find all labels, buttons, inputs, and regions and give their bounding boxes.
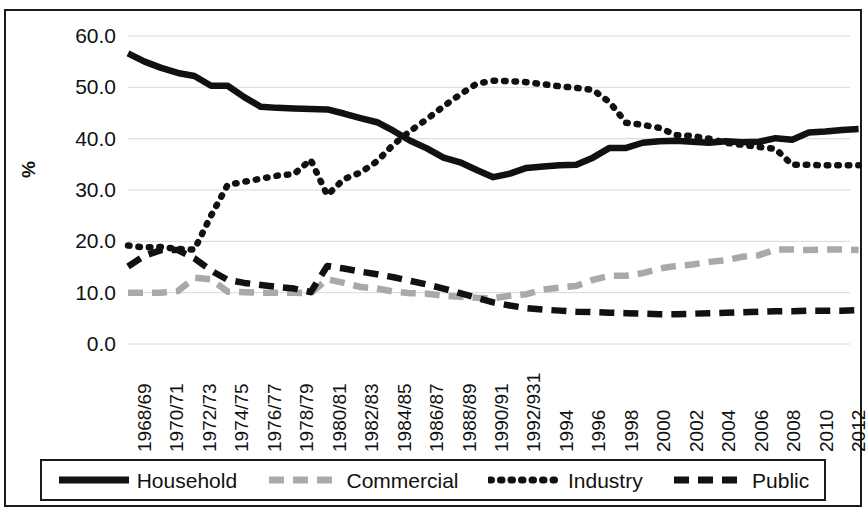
series-layer (128, 53, 859, 314)
legend-label: Household (137, 470, 237, 491)
x-tick-label: 1974/75 (232, 383, 251, 452)
dashed-line-swatch (267, 473, 341, 487)
x-tick-label: 1986/87 (427, 383, 446, 452)
series-line-commercial (128, 250, 859, 299)
x-tick-label: 1998 (622, 410, 641, 452)
dashed-line-swatch (672, 473, 746, 487)
x-axis-tick-labels: 1968/691970/711972/731974/751976/771978/… (0, 352, 868, 457)
x-tick-label: 1970/71 (167, 383, 186, 452)
series-line-public (128, 250, 859, 314)
gridlines (128, 36, 850, 344)
legend-entry-commercial: Commercial (267, 470, 459, 491)
y-axis-tick-labels: 60.050.040.030.020.010.00.0 (46, 0, 116, 360)
x-tick-label: 1984/85 (395, 383, 414, 452)
x-tick-label: 1978/79 (297, 383, 316, 452)
x-tick-label: 1972/73 (200, 383, 219, 452)
x-tick-label: 1994 (557, 410, 576, 452)
series-line-household (128, 53, 859, 177)
y-tick-label: 20.0 (46, 230, 116, 251)
y-axis-title: % (18, 161, 40, 178)
y-tick-label: 60.0 (46, 25, 116, 46)
x-tick-label: 2008 (784, 410, 803, 452)
x-tick-label: 1982/83 (362, 383, 381, 452)
plot-area: 60.050.040.030.020.010.00.0 % 1968/69197… (0, 0, 868, 460)
x-tick-label: 1990/91 (492, 383, 511, 452)
chart-figure: 60.050.040.030.020.010.00.0 % 1968/69197… (0, 0, 868, 514)
legend-entry-public: Public (672, 470, 809, 491)
x-tick-label: 1976/77 (265, 383, 284, 452)
series-line-industry (128, 81, 859, 250)
x-tick-label: 1968/69 (135, 383, 154, 452)
x-tick-label: 1988/89 (460, 383, 479, 452)
x-tick-label: 2012 (849, 410, 868, 452)
legend-label: Industry (568, 470, 643, 491)
x-tick-label: 1980/81 (330, 383, 349, 452)
y-tick-label: 40.0 (46, 128, 116, 149)
y-tick-label: 10.0 (46, 282, 116, 303)
x-tick-label: 2002 (687, 410, 706, 452)
y-tick-label: 0.0 (46, 333, 116, 354)
x-tick-label: 1992/931 (524, 373, 543, 452)
x-tick-label: 1996 (589, 410, 608, 452)
legend-entry-industry: Industry (488, 470, 643, 491)
chart-legend: HouseholdCommercialIndustryPublic (40, 459, 826, 501)
y-tick-label: 50.0 (46, 76, 116, 97)
x-tick-label: 2006 (752, 410, 771, 452)
legend-label: Commercial (347, 470, 459, 491)
x-tick-label: 2000 (654, 410, 673, 452)
dotted-line-swatch (488, 473, 562, 487)
legend-label: Public (752, 470, 809, 491)
x-tick-label: 2004 (719, 410, 738, 452)
x-tick-label: 2010 (817, 410, 836, 452)
legend-entry-household: Household (57, 470, 237, 491)
solid-line-swatch (57, 473, 131, 487)
y-tick-label: 30.0 (46, 179, 116, 200)
